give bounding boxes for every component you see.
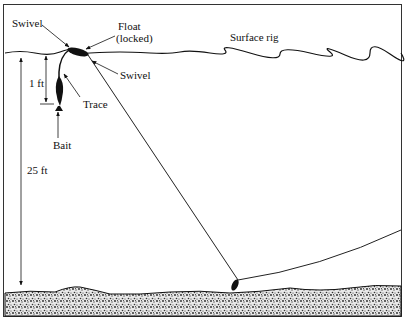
trace-line <box>59 50 69 80</box>
seabed <box>5 285 401 316</box>
label-float: Float <box>118 20 141 32</box>
bottom-line <box>238 230 401 280</box>
label-1ft: 1 ft <box>29 77 44 89</box>
label-trace: Trace <box>83 98 108 110</box>
label-float-locked: (locked) <box>116 32 153 44</box>
surface-rig-diagram <box>0 0 405 321</box>
label-swivel-right: Swivel <box>120 69 151 81</box>
label-bait: Bait <box>53 139 71 151</box>
swivel-top-pointer <box>42 25 69 47</box>
main-line <box>88 55 238 280</box>
diagram-title: Surface rig <box>230 31 279 43</box>
bait-fish <box>56 76 63 106</box>
float-pointer <box>86 36 115 49</box>
label-swivel-top: Swivel <box>12 17 43 29</box>
float <box>66 46 89 58</box>
trace-pointer <box>64 74 80 97</box>
label-25ft: 25 ft <box>27 164 47 176</box>
